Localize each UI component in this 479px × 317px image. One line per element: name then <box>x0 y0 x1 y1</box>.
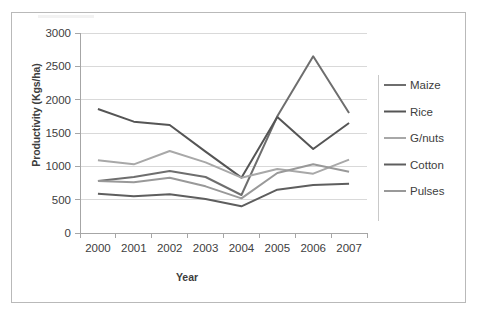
y-tick-label: 1500 <box>45 127 71 139</box>
x-tick-label: 2002 <box>157 242 183 254</box>
legend-label-g-nuts: G/nuts <box>410 132 444 144</box>
x-tick-label: 2005 <box>265 242 291 254</box>
x-tick-label: 2003 <box>193 242 219 254</box>
y-tick-label: 500 <box>52 194 71 206</box>
y-tick-label: 3000 <box>45 27 71 39</box>
x-tick-label: 2004 <box>229 242 255 254</box>
legend-label-cotton: Cotton <box>410 159 444 171</box>
line-chart-svg: 0500100015002000250030002000200120022003… <box>12 13 467 304</box>
y-tick-label: 1000 <box>45 160 71 172</box>
x-tick-label: 2007 <box>336 242 362 254</box>
y-tick-label: 2500 <box>45 60 71 72</box>
y-tick-label: 2000 <box>45 94 71 106</box>
x-tick-label: 2006 <box>300 242 326 254</box>
legend-label-pulses: Pulses <box>410 185 445 197</box>
chart-figure: Productivity (Kgs/ha) Year 0500100015002… <box>11 12 466 303</box>
legend-label-maize: Maize <box>410 79 441 91</box>
x-tick-label: 2000 <box>85 242 111 254</box>
y-tick-label: 0 <box>65 227 71 239</box>
legend-label-rice: Rice <box>410 106 433 118</box>
plot-area: Productivity (Kgs/ha) Year 0500100015002… <box>12 13 467 304</box>
series-line-rice <box>98 109 349 178</box>
x-tick-label: 2001 <box>121 242 147 254</box>
